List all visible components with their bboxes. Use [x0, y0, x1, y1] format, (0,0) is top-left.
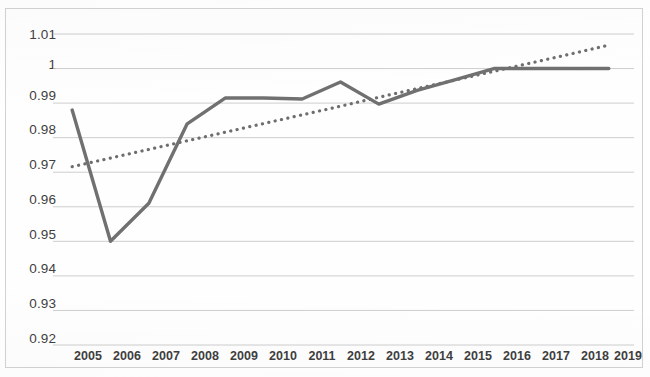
x-tick-label-2009: 2009	[222, 349, 266, 363]
y-tick-label-7: 0.94	[10, 261, 56, 276]
x-tick-label-2008: 2008	[183, 349, 227, 363]
x-tick-label-2016: 2016	[495, 349, 539, 363]
x-tick-label-2006: 2006	[105, 349, 149, 363]
y-tick-label-8: 0.93	[10, 296, 56, 311]
y-tick-label-3: 0.98	[10, 122, 56, 137]
x-tick-label-2011: 2011	[300, 349, 344, 363]
x-tick-label-2005: 2005	[66, 349, 110, 363]
x-tick-label-2010: 2010	[261, 349, 305, 363]
y-tick-label-5: 0.96	[10, 192, 56, 207]
x-tick-label-2007: 2007	[144, 349, 188, 363]
y-tick-label-6: 0.95	[10, 227, 56, 242]
y-tick-label-1: 1	[10, 57, 56, 72]
x-tick-label-2015: 2015	[456, 349, 500, 363]
y-tick-label-2: 0.99	[10, 88, 56, 103]
x-tick-label-2019: 2019	[606, 349, 650, 363]
x-tick-label-2013: 2013	[378, 349, 422, 363]
y-tick-label-4: 0.97	[10, 157, 56, 172]
y-tick-label-9: 0.92	[10, 331, 56, 346]
chart-border	[5, 8, 643, 368]
x-tick-label-2014: 2014	[417, 349, 461, 363]
y-tick-label-0: 1.01	[10, 27, 56, 42]
x-tick-label-2012: 2012	[339, 349, 383, 363]
line-chart: 1.01 1 0.99 0.98 0.97 0.96 0.95 0.94 0.9…	[0, 0, 650, 377]
x-tick-label-2017: 2017	[534, 349, 578, 363]
